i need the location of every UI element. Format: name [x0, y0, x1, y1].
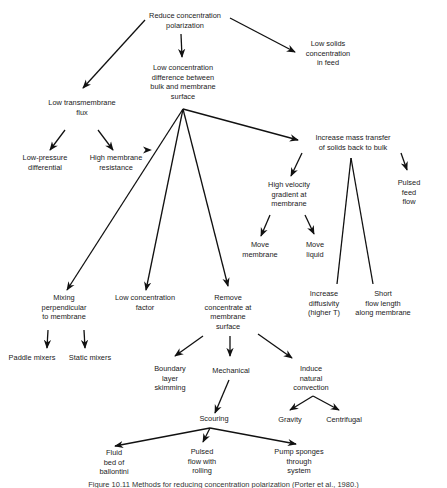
node-scouring: Scouring	[199, 414, 228, 424]
node-pump-sponges: Pump sponges through system	[274, 447, 323, 476]
node-gravity: Gravity	[278, 415, 301, 425]
node-remove-concentrate: Remove concentrate at membrane surface	[205, 293, 252, 331]
node-centrifugal: Centrifugal	[326, 415, 362, 425]
node-induce-natural-convection: Induce natural convection	[293, 364, 328, 393]
figure-caption: Figure 10.11 Methods for reducing concen…	[0, 480, 447, 488]
node-short-flow-length: Short flow length along membrane	[355, 289, 410, 318]
node-mechanical: Mechanical	[212, 366, 249, 376]
concentration-polarization-diagram: Reduce concentration polarization Low co…	[0, 0, 447, 488]
node-low-solids-concentration: Low solids concentration in feed	[306, 39, 350, 68]
node-move-liquid: Move liquid	[306, 240, 324, 259]
node-paddle-mixers: Paddle mixers	[9, 353, 56, 363]
node-pulsed-feed-flow: Pulsed feed flow	[390, 178, 428, 207]
node-increase-mass-transfer: Increase mass transfer of solids back to…	[315, 133, 390, 152]
node-fluid-bed-ballontini: Fluid bed of ballontini	[99, 448, 128, 477]
node-low-transmembrane-flux: Low transmembrane flux	[48, 98, 115, 117]
node-increase-diffusivity: Increase diffusivity (higher T)	[308, 289, 340, 318]
node-low-pressure-differential: Low-pressure differential	[23, 153, 68, 172]
node-high-velocity-gradient: High velocity gradient at membrane	[268, 180, 310, 209]
node-boundary-layer-skimming: Boundary layer skimming	[154, 364, 186, 393]
node-move-membrane: Move membrane	[242, 240, 277, 259]
node-low-concentration-difference: Low concentration difference between bul…	[150, 63, 215, 101]
node-low-concentration-factor: Low concentration factor	[115, 293, 175, 312]
node-pulsed-flow-rolling: Pulsed flow with rolling	[188, 447, 216, 476]
node-static-mixers: Static mixers	[69, 353, 111, 363]
node-reduce-concentration-polarization: Reduce concentration polarization	[149, 11, 221, 30]
node-mixing-perpendicular: Mixing perpendicular to membrane	[42, 293, 87, 322]
node-high-membrane-resistance: High membrane resistance	[90, 153, 143, 172]
